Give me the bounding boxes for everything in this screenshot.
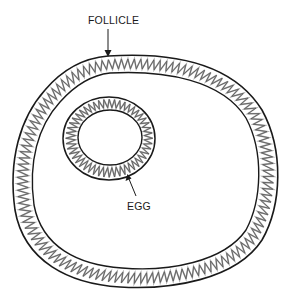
follicle-label-group: FOLLICLE [88, 14, 139, 57]
egg-arrow-line [129, 179, 136, 196]
egg-inner-wall [78, 110, 142, 165]
egg-label: EGG [127, 200, 151, 212]
follicle-label: FOLLICLE [88, 14, 139, 26]
follicle-inner-wall [32, 73, 258, 269]
egg [63, 97, 155, 180]
follicle-egg-diagram: FOLLICLE EGG [0, 0, 292, 305]
follicle [13, 55, 278, 287]
egg-label-group: EGG [126, 174, 151, 212]
follicle-zigzag-layer [17, 59, 273, 283]
